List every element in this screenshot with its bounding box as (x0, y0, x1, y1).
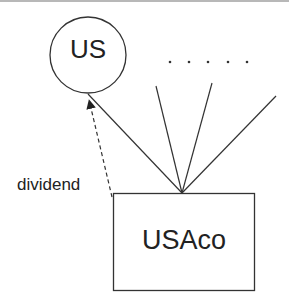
edge-usaco-other-2 (182, 83, 212, 193)
ellipsis-dots (169, 61, 249, 64)
edge-usaco-other-1 (156, 86, 182, 193)
us-node-label: US (60, 34, 116, 65)
dividend-label: dividend (17, 175, 80, 195)
edge-usaco-us (88, 94, 182, 193)
diagram-canvas (0, 0, 289, 307)
dividend-arrow (90, 104, 112, 197)
edge-usaco-other-3 (182, 96, 276, 193)
usaco-node-label: USAco (113, 225, 255, 256)
